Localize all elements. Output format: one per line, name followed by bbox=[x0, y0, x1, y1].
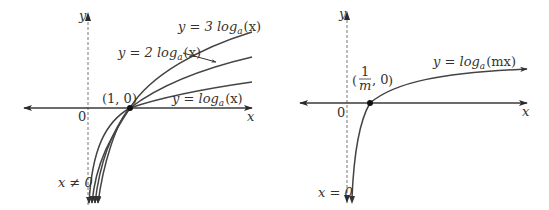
curve-log-mx-lower bbox=[352, 103, 370, 198]
right-origin-label: 0 bbox=[337, 105, 345, 120]
svg-text:(: ( bbox=[352, 73, 357, 88]
svg-text:): ) bbox=[388, 73, 393, 88]
curve-asymptote-branch bbox=[89, 108, 130, 203]
log-graphs-figure: y x 0 (1, 0) x ≠ 0 y = 3 loga(x) y = 2 l… bbox=[0, 0, 549, 210]
fraction-rest: , 0 bbox=[372, 72, 389, 87]
label-log-mx: y = loga(mx) bbox=[432, 54, 516, 71]
label-2log: y = 2 loga(x) bbox=[117, 45, 201, 62]
left-graph: y x 0 (1, 0) x ≠ 0 y = 3 loga(x) y = 2 l… bbox=[24, 8, 261, 205]
left-x-label: x bbox=[247, 109, 255, 124]
right-graph: y x 0 x = 0 ( 1 m , 0 ) y = loga(mx) bbox=[300, 6, 530, 204]
right-x-label: x bbox=[522, 104, 530, 119]
left-asymptote-label: x ≠ 0 bbox=[58, 175, 93, 190]
curve-2log bbox=[95, 57, 252, 203]
point-label: (1, 0) bbox=[102, 91, 137, 106]
fraction-denominator: m bbox=[359, 78, 371, 93]
point-1-over-m-0 bbox=[367, 100, 373, 106]
curve-log-mx bbox=[370, 69, 527, 103]
label-3log: y = 3 loga(x) bbox=[177, 19, 261, 36]
left-y-label: y bbox=[78, 8, 87, 23]
label-log: y = loga(x) bbox=[171, 91, 243, 108]
right-y-label: y bbox=[338, 6, 347, 21]
fraction-numerator: 1 bbox=[361, 64, 369, 79]
right-asymptote-label: x = 0 bbox=[318, 185, 353, 200]
point-fraction-label: ( 1 m , 0 ) bbox=[352, 64, 393, 93]
left-origin-label: 0 bbox=[78, 109, 86, 124]
